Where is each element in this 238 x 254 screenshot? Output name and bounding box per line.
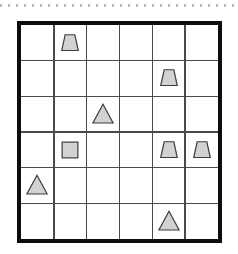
triangle-r3c3[interactable] xyxy=(88,99,118,129)
grid-cell-r5c5[interactable] xyxy=(152,168,185,204)
grid-cell-r4c1[interactable] xyxy=(21,132,54,168)
grid-cell-r5c6[interactable] xyxy=(185,168,218,204)
trapezoid-icon xyxy=(154,63,184,93)
grid-cell-r4c2[interactable] xyxy=(54,132,87,168)
trapezoid-r2c5[interactable] xyxy=(154,63,184,93)
triangle-icon xyxy=(154,206,184,236)
triangle-r6c5[interactable] xyxy=(154,206,184,236)
trapezoid-icon xyxy=(154,135,184,165)
grid-cell-r1c1[interactable] xyxy=(21,25,54,61)
grid-cell-r4c5[interactable] xyxy=(152,132,185,168)
grid-cell-r3c5[interactable] xyxy=(152,96,185,132)
grid-cell-r1c6[interactable] xyxy=(185,25,218,61)
grid-cell-r4c4[interactable] xyxy=(120,132,153,168)
square-r4c2[interactable] xyxy=(55,135,85,165)
grid-cell-r5c4[interactable] xyxy=(120,168,153,204)
grid-cell-r2c6[interactable] xyxy=(185,61,218,97)
grid-cell-r3c4[interactable] xyxy=(120,96,153,132)
grid-cell-r1c4[interactable] xyxy=(120,25,153,61)
grid-cell-r2c5[interactable] xyxy=(152,61,185,97)
grid-cell-r5c1[interactable] xyxy=(21,168,54,204)
grid-cell-r6c1[interactable] xyxy=(21,203,54,239)
grid-cell-r5c3[interactable] xyxy=(87,168,120,204)
trapezoid-r4c6[interactable] xyxy=(187,135,217,165)
grid-cell-r5c2[interactable] xyxy=(54,168,87,204)
grid-cell-r1c2[interactable] xyxy=(54,25,87,61)
grid-cell-r3c6[interactable] xyxy=(185,96,218,132)
grid-cell-r6c2[interactable] xyxy=(54,203,87,239)
trapezoid-icon xyxy=(187,135,217,165)
square-icon xyxy=(55,135,85,165)
grid-cell-r2c2[interactable] xyxy=(54,61,87,97)
dotted-rule xyxy=(0,4,238,7)
grid-cell-r4c6[interactable] xyxy=(185,132,218,168)
triangle-icon xyxy=(88,99,118,129)
grid-cell-r6c6[interactable] xyxy=(185,203,218,239)
trapezoid-r4c5[interactable] xyxy=(154,135,184,165)
triangle-r5c1[interactable] xyxy=(22,170,52,200)
grid-cell-r6c4[interactable] xyxy=(120,203,153,239)
trapezoid-icon xyxy=(55,28,85,58)
grid-cell-r3c2[interactable] xyxy=(54,96,87,132)
triangle-icon xyxy=(22,170,52,200)
grid-cell-r2c3[interactable] xyxy=(87,61,120,97)
grid-cell-r3c3[interactable] xyxy=(87,96,120,132)
puzzle-canvas xyxy=(0,0,238,254)
grid-cell-r1c3[interactable] xyxy=(87,25,120,61)
grid-cell-r6c5[interactable] xyxy=(152,203,185,239)
grid-cell-r6c3[interactable] xyxy=(87,203,120,239)
grid-cell-r3c1[interactable] xyxy=(21,96,54,132)
grid-cell-r2c4[interactable] xyxy=(120,61,153,97)
grid-cell-r1c5[interactable] xyxy=(152,25,185,61)
trapezoid-r1c2[interactable] xyxy=(55,28,85,58)
grid-cell-r2c1[interactable] xyxy=(21,61,54,97)
grid-cell-r4c3[interactable] xyxy=(87,132,120,168)
